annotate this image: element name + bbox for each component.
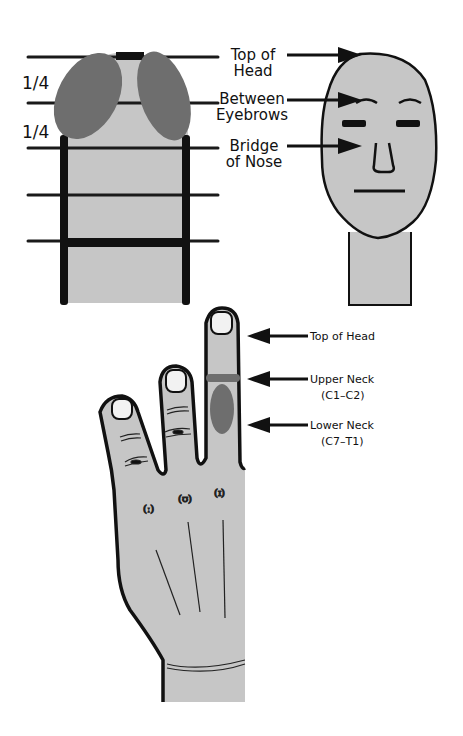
column-schematic: 1/4 1/4 [22, 41, 218, 305]
svg-text:(ː): (ː) [143, 503, 154, 514]
label-top-of-head-2: Head [233, 62, 272, 80]
fingernail-ring [112, 399, 132, 419]
label-lower-neck-2: (C7–T1) [321, 435, 363, 448]
right-rail [182, 135, 190, 305]
diagram-canvas: 1/4 1/4 Top of Head Between Eyebrows B [0, 0, 463, 736]
fingernail-middle [166, 370, 186, 392]
left-eye [342, 120, 366, 127]
left-rail [60, 135, 68, 305]
label-hand-top-of-head: Top of Head [309, 330, 375, 343]
label-upper-neck-2: (C1–C2) [321, 389, 364, 402]
label-between-eyebrows-2: Eyebrows [216, 106, 288, 124]
lower-neck-ellipse [210, 384, 234, 434]
fraction-label-1: 1/4 [22, 73, 49, 93]
label-lower-neck-1: Lower Neck [310, 419, 374, 432]
label-bridge-of-nose-2: of Nose [226, 153, 283, 171]
upper-neck-band [206, 374, 240, 382]
top-bar [116, 52, 144, 60]
crossbar [60, 238, 190, 247]
face-diagram: Top of Head Between Eyebrows Bridge of N… [216, 46, 436, 305]
fingernail-index [211, 312, 232, 334]
svg-text:(ɪ): (ɪ) [214, 487, 225, 498]
label-upper-neck-1: Upper Neck [310, 373, 375, 386]
hand-diagram: (ː) (ʊ) (ɪ) Top of Head Upper Neck (C1–C… [100, 308, 375, 702]
right-eye [396, 120, 420, 127]
neck [349, 232, 411, 305]
arrow-hand-top-icon [247, 328, 270, 344]
arrow-lower-neck-icon [247, 417, 270, 433]
fraction-label-2: 1/4 [22, 122, 49, 142]
arrow-upper-neck-icon [247, 371, 270, 387]
svg-text:(ʊ): (ʊ) [178, 493, 192, 504]
